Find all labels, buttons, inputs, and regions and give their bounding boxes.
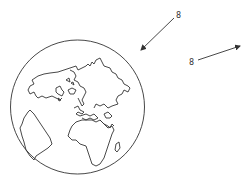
greenland-coast: [32, 58, 130, 108]
globe-outline: [11, 40, 145, 174]
south-america-coast: [20, 110, 52, 160]
outgoing-arrow-label: 8: [189, 58, 194, 67]
north-america-coast: [28, 80, 62, 100]
madagascar: [115, 142, 120, 152]
british-isles: [56, 86, 64, 96]
incoming-arrow-label: 8: [176, 11, 181, 20]
africa-coast: [68, 120, 114, 166]
earth-diagram: 8 8: [0, 0, 247, 182]
outgoing-arrow: 8: [189, 46, 240, 67]
outgoing-arrow-line: [198, 46, 240, 60]
incoming-arrow-line: [141, 18, 174, 50]
incoming-arrow: 8: [141, 11, 181, 50]
iceland: [68, 88, 76, 94]
small-islands: [58, 78, 74, 101]
globe: [11, 40, 145, 174]
